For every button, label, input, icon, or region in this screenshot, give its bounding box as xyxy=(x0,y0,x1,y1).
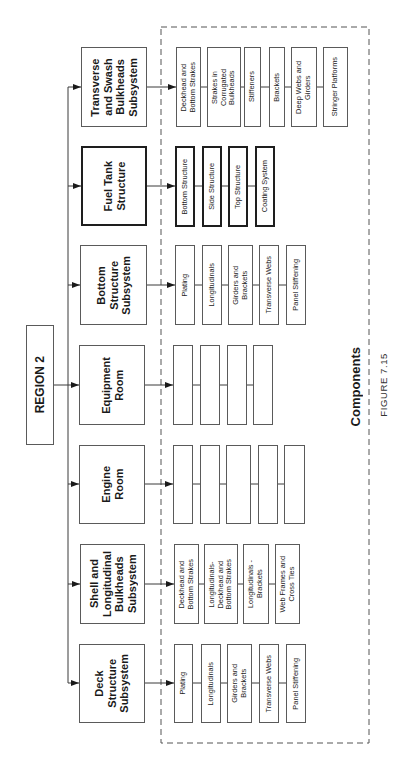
component-label: Longitudinals xyxy=(208,263,217,307)
component-box: Girders and Brackets xyxy=(227,644,252,723)
component-box: Bottom Structure xyxy=(175,146,195,227)
arrow-head-icon xyxy=(166,680,174,686)
figure-caption: FIGURE 7.15 xyxy=(376,350,390,420)
component-label: Deckhead and Bottom Strakes xyxy=(180,62,197,113)
subsystem-label: Deck Structure Subsystem xyxy=(93,654,131,713)
component-box: Stringer Platforms xyxy=(323,47,348,127)
component-box: Plating xyxy=(174,644,193,723)
subsystem-deck-structure: Deck Structure Subsystem xyxy=(79,644,145,723)
arrow-head-icon xyxy=(165,382,173,388)
component-label: Longitudinals - Brackets xyxy=(247,560,264,608)
subsystem-engine-room: Engine Room xyxy=(79,445,145,524)
component-box: Deckhead and Bottom Strakes xyxy=(176,47,201,127)
subsystem-label: Engine Room xyxy=(100,466,125,503)
component-label: Brackets xyxy=(273,73,282,102)
component-label: Panel Stiffening xyxy=(292,259,301,311)
component-box-empty xyxy=(173,445,193,524)
component-label: Top Structure xyxy=(234,165,243,209)
component-label: Strakes in Corrugated Bulkheads xyxy=(211,69,237,106)
arrow-head-icon xyxy=(72,581,80,587)
component-box: Longitudinals xyxy=(201,644,221,723)
component-box: Girders and Brackets xyxy=(228,245,253,325)
figure-caption-text: FIGURE 7.15 xyxy=(378,353,389,417)
arrow-head-icon xyxy=(166,581,174,587)
component-box: Longitudinals xyxy=(202,245,222,325)
component-box: Longitudinals - Brackets xyxy=(243,544,269,624)
subsystem-label: Fuel Tank Structure xyxy=(102,161,127,212)
component-box: Stiffeners xyxy=(244,47,261,127)
component-box-empty xyxy=(226,445,251,524)
component-box: Plating xyxy=(175,245,195,325)
component-box: Strakes in Corrugated Bulkheads xyxy=(207,47,241,127)
arrow-head-icon xyxy=(167,282,175,288)
component-label: Longitudinals- Deckhead and Bottom Strak… xyxy=(208,559,234,610)
component-label: Deep Webs and Girders xyxy=(295,61,312,114)
component-box-empty xyxy=(173,345,193,425)
subsystem-equipment-room: Equipment Room xyxy=(79,345,145,425)
components-group-label-text: Components xyxy=(348,347,363,426)
component-label: Deckhead and Bottom Strakes xyxy=(178,559,195,610)
subsystem-label: Transverse and Swash Bulkheads Subsystem xyxy=(89,58,139,117)
component-label: Girders and Brackets xyxy=(231,664,248,703)
subsystem-fuel-tank-structure: Fuel Tank Structure xyxy=(81,146,147,226)
arrow-head-icon xyxy=(71,382,79,388)
component-label: Plating xyxy=(181,274,190,297)
component-label: Stringer Platforms xyxy=(331,57,340,116)
component-box: Side Structure xyxy=(202,146,222,227)
arrow-head-icon xyxy=(167,183,175,189)
component-label: Transverse Webs xyxy=(265,655,274,713)
component-label: Side Structure xyxy=(208,163,217,210)
component-label: Coating System xyxy=(261,160,270,212)
component-box: Deep Webs and Girders xyxy=(291,47,317,127)
arrow-head-icon xyxy=(71,481,79,487)
component-box: Longitudinals- Deckhead and Bottom Strak… xyxy=(204,544,238,624)
component-label: Girders and Brackets xyxy=(232,266,249,305)
subsystem-shell-longitudinal-bulkheads: Shell and Longitudinal Bulkheads Subsyst… xyxy=(80,544,145,624)
component-label: Panel Stiffening xyxy=(292,658,301,710)
component-box: Transverse Webs xyxy=(259,245,279,325)
component-box: Brackets xyxy=(269,47,285,127)
region-label: REGION 2 xyxy=(34,356,47,413)
component-box-empty xyxy=(227,345,247,425)
component-box: Web Frames and Cross Ties xyxy=(275,544,300,624)
arrow-head-icon xyxy=(72,282,80,288)
component-box-empty xyxy=(200,345,220,425)
hierarchy-diagram: REGION 2 Transverse and Swash Bulkheads … xyxy=(0,0,393,757)
arrow-head-icon xyxy=(165,481,173,487)
component-box: Coating System xyxy=(255,146,275,227)
components-group-label: Components xyxy=(346,340,364,434)
component-box: Panel Stiffening xyxy=(286,245,306,325)
component-box-empty xyxy=(284,445,305,524)
component-box-empty xyxy=(258,445,278,524)
subsystem-label: Equipment Room xyxy=(100,357,125,414)
component-label: Transverse Webs xyxy=(265,256,274,314)
component-label: Longitudinals xyxy=(207,662,216,706)
subsystem-bottom-structure: Bottom Structure Subsystem xyxy=(80,245,147,325)
region-box: REGION 2 xyxy=(26,325,54,445)
component-box-empty xyxy=(253,345,273,425)
component-box: Panel Stiffening xyxy=(286,644,306,723)
component-box: Top Structure xyxy=(228,146,248,227)
subsystem-label: Bottom Structure Subsystem xyxy=(95,256,133,315)
component-label: Web Frames and Cross Ties xyxy=(279,556,296,613)
component-label: Plating xyxy=(179,672,188,695)
arrow-head-icon xyxy=(71,680,79,686)
component-label: Bottom Structure xyxy=(181,159,190,214)
subsystem-transverse-swash-bulkheads: Transverse and Swash Bulkheads Subsystem xyxy=(81,47,147,127)
component-box: Transverse Webs xyxy=(259,644,279,723)
arrow-head-icon xyxy=(73,183,81,189)
arrow-head-icon xyxy=(73,84,81,90)
component-box: Deckhead and Bottom Strakes xyxy=(174,544,199,624)
component-label: Stiffeners xyxy=(248,71,257,102)
arrow-head-icon xyxy=(168,84,176,90)
subsystem-label: Shell and Longitudinal Bulkheads Subsyst… xyxy=(88,551,138,617)
component-box-empty xyxy=(200,445,220,524)
